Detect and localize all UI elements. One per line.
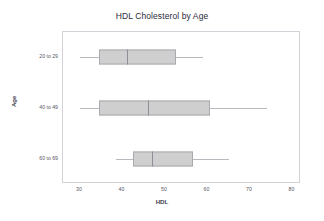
box-rect xyxy=(99,100,210,115)
x-tick-label: 30 xyxy=(76,186,82,192)
median-line xyxy=(152,151,153,166)
plot-frame xyxy=(62,31,300,183)
box-plot-group xyxy=(63,83,299,134)
chart-figure: HDL Cholesterol by Age Age 20 to 2940 to… xyxy=(0,0,324,221)
y-tick-label: 60 to 69 xyxy=(0,155,58,161)
whisker-high xyxy=(176,57,204,58)
whisker-low xyxy=(116,159,133,160)
x-tick-label: 70 xyxy=(246,186,252,192)
whisker-low xyxy=(80,108,99,109)
median-line xyxy=(127,50,128,65)
box-rect xyxy=(99,50,176,65)
x-axis-title: HDL xyxy=(0,198,324,205)
y-tick-label: 40 to 49 xyxy=(0,104,58,110)
chart-title: HDL Cholesterol by Age xyxy=(0,11,324,21)
box-plot-group xyxy=(63,133,299,184)
x-tick-label: 40 xyxy=(119,186,125,192)
median-line xyxy=(148,100,149,115)
plot-area xyxy=(63,32,299,182)
whisker-low xyxy=(80,57,99,58)
box-rect xyxy=(133,151,193,166)
box-plot-group xyxy=(63,32,299,83)
whisker-high xyxy=(210,108,267,109)
x-tick-label: 60 xyxy=(204,186,210,192)
whisker-high xyxy=(193,159,229,160)
y-tick-label: 20 to 29 xyxy=(0,53,58,59)
x-tick-label: 80 xyxy=(289,186,295,192)
x-tick-label: 50 xyxy=(161,186,167,192)
